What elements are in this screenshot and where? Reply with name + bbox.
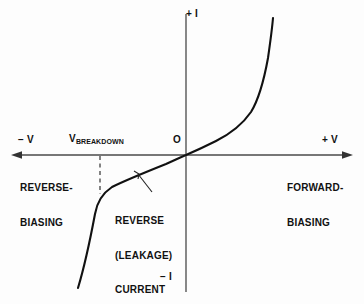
axis-label-positive-current: + I [186,8,198,20]
breakdown-voltage-symbol: V [69,133,76,144]
diode-iv-characteristic-figure: + I − I − V + V O VBREAKDOWN REVERSE- BI… [0,0,364,304]
axis-label-positive-voltage: + V [322,134,338,146]
breakdown-voltage-label: VBREAKDOWN [69,133,124,148]
forward-biasing-label-line1: FORWARD- [287,182,343,194]
reverse-biasing-label: REVERSE- BIASING [20,159,73,251]
reverse-leakage-current-label-line3: CURRENT [115,284,172,296]
axis-arrow-right-icon [342,151,353,159]
reverse-biasing-label-line1: REVERSE- [20,182,73,194]
axis-label-origin: O [173,134,181,146]
iv-curve-svg [0,0,364,304]
reverse-leakage-current-label: REVERSE (LEAKAGE) CURRENT [115,192,172,304]
breakdown-voltage-subscript: BREAKDOWN [76,138,124,145]
reverse-leakage-current-label-line2: (LEAKAGE) [115,250,172,262]
forward-biasing-label: FORWARD- BIASING [287,159,343,251]
diode-curve [78,18,273,288]
reverse-leakage-current-label-line1: REVERSE [115,215,172,227]
forward-biasing-label-line2: BIASING [287,217,343,229]
axis-arrow-left-icon [11,151,22,159]
reverse-biasing-label-line2: BIASING [20,217,73,229]
axis-label-negative-voltage: − V [18,134,34,146]
